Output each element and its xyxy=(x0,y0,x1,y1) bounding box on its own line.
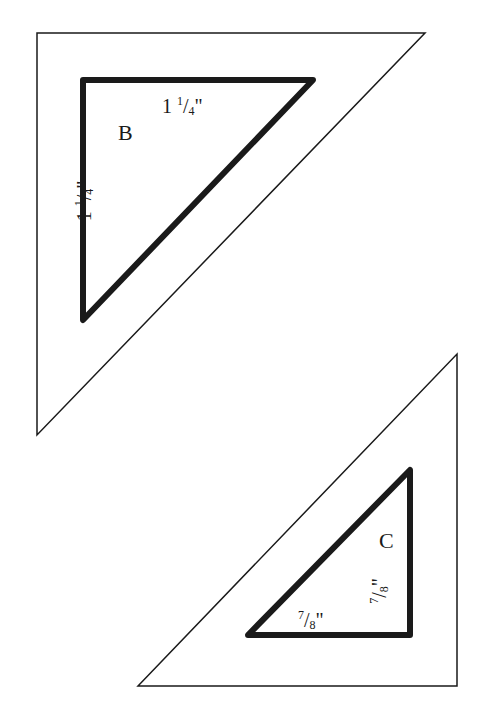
piece-b-outer-outline xyxy=(37,33,425,435)
piece-c-right-dimension: 7/8" xyxy=(368,578,390,604)
dim-denominator: 4 xyxy=(82,189,96,195)
dim-numerator: 1 xyxy=(72,200,86,206)
dim-unit: " xyxy=(195,95,203,117)
dim-denominator: 8 xyxy=(377,586,391,592)
piece-b-label: B xyxy=(118,122,133,144)
dim-unit: " xyxy=(316,609,324,631)
dim-whole: 1 xyxy=(73,211,95,221)
piece-c-label: C xyxy=(379,530,394,552)
piece-c-bottom-dimension: 7/8" xyxy=(298,609,324,631)
dim-numerator: 7 xyxy=(367,598,381,604)
piece-b-top-dimension: 1 1/4" xyxy=(162,95,203,117)
dim-whole: 1 xyxy=(162,95,172,117)
piece-b-left-dimension: 1 1/4" xyxy=(73,181,95,222)
template-diagram xyxy=(0,0,488,709)
dim-numerator: 1 xyxy=(177,94,183,108)
dim-unit: " xyxy=(73,181,95,189)
dim-unit: " xyxy=(368,578,390,586)
dim-numerator: 7 xyxy=(298,608,304,622)
